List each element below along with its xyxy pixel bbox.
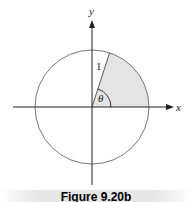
- angle-label: θ: [98, 92, 104, 104]
- unit-circle-diagram: x y 1 θ: [0, 0, 192, 202]
- y-axis-arrow-icon: [89, 20, 95, 28]
- x-axis-arrow-icon: [166, 104, 174, 110]
- x-axis-label: x: [175, 101, 181, 113]
- y-axis-label: y: [88, 5, 94, 17]
- radius-label: 1: [96, 60, 102, 72]
- figure-caption: Figure 9.20b: [0, 191, 192, 202]
